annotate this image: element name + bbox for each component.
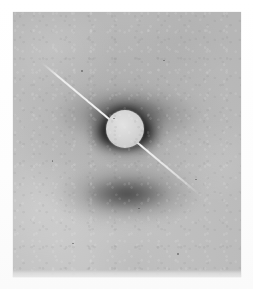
diffraction-photograph	[13, 12, 241, 277]
screenshot-canvas	[0, 0, 253, 289]
dust-speck	[81, 70, 82, 71]
dust-speck	[163, 60, 164, 61]
print-bottom-light-band	[13, 270, 241, 277]
dust-speck	[52, 160, 53, 161]
photo-caption	[0, 0, 1, 1]
dust-speck	[177, 253, 178, 254]
dust-speck	[72, 243, 73, 244]
film-grain-overlay	[13, 12, 241, 277]
